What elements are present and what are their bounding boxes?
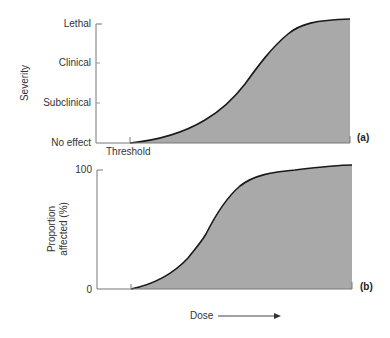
severity-axis-label: Severity	[19, 65, 30, 101]
tick-0: 0	[86, 284, 92, 295]
proportion-axis-label-line1: Proportion	[46, 206, 57, 252]
threshold-label: Threshold	[106, 146, 150, 157]
proportion-axis-label-line2: affected (%)	[58, 202, 69, 256]
tick-lethal: Lethal	[64, 18, 91, 29]
tick-clinical: Clinical	[59, 57, 91, 68]
severity-area	[130, 19, 350, 143]
tick-no-effect: No effect	[51, 137, 91, 148]
proportion-area	[131, 165, 352, 289]
arrow-head-icon	[274, 313, 281, 319]
panel-label-a: (a)	[357, 132, 369, 143]
dose-response-figure: Lethal Clinical Subclinical No effect Th…	[0, 0, 390, 338]
tick-subclinical: Subclinical	[43, 97, 91, 108]
tick-100: 100	[75, 164, 92, 175]
dose-axis: Dose	[190, 310, 281, 321]
panel-label-b: (b)	[360, 281, 373, 292]
dose-label: Dose	[190, 310, 214, 321]
severity-chart: Lethal Clinical Subclinical No effect Th…	[19, 18, 369, 157]
proportion-chart: 100 0 Proportion affected (%) (b)	[46, 164, 373, 295]
